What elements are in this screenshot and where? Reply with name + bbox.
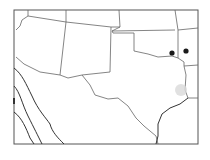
highlight-area xyxy=(175,84,187,96)
map-canvas xyxy=(0,0,210,160)
marker-2 xyxy=(183,48,188,53)
marker-1 xyxy=(169,50,174,55)
